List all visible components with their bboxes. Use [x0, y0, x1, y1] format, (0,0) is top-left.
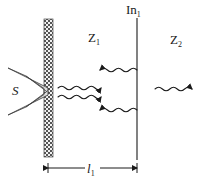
figure-container: S In1 Z1 Z2	[0, 0, 208, 184]
zone2-label: Z2	[170, 32, 182, 49]
wave-z1-top	[100, 68, 137, 71]
wave-z1-upper-mid	[58, 86, 101, 89]
source-label: S	[12, 83, 19, 98]
wave-diagram-svg: S In1 Z1 Z2	[0, 0, 208, 184]
wave-z2	[155, 87, 192, 90]
source-horn-inner-edge	[26, 76, 44, 107]
wave-z1-bottom	[100, 108, 137, 111]
dimension-label-l1: l1	[87, 161, 95, 178]
wave-z1-lower-mid	[58, 95, 101, 98]
wave-arrows	[58, 68, 192, 111]
zone1-label: Z1	[88, 30, 100, 47]
interface-label: In1	[126, 2, 141, 19]
